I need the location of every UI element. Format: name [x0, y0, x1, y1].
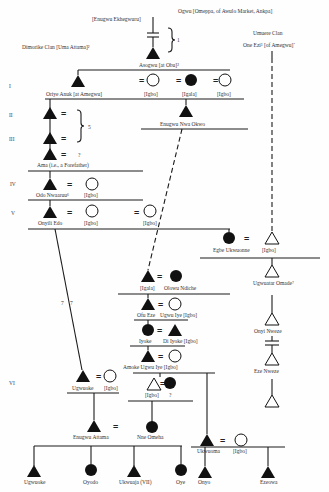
label-di-iyoke: Di Iyoke [Igbo]: [163, 338, 198, 344]
female-egbe-ukwuonne: [223, 232, 235, 244]
male-gen-II: [43, 107, 57, 119]
female-ugwuoke-wife: [104, 370, 116, 382]
generation-IV: IV: [10, 181, 16, 187]
bracket-2-note: 5: [88, 124, 91, 130]
svg-text:=: =: [244, 234, 249, 244]
generation-II: II: [9, 112, 13, 118]
male-igala: [141, 270, 155, 282]
male-umuere-descendant: [265, 395, 279, 407]
svg-text:7: 7: [61, 300, 64, 306]
svg-text:=: =: [139, 76, 144, 86]
label-iyoke: Iyoke: [139, 338, 152, 344]
svg-text:=: =: [157, 272, 162, 282]
female-oyodo: [85, 464, 97, 476]
label-onyili-edo: Onyili Edo: [38, 220, 63, 226]
onyili-ugwuoke-line: [55, 229, 82, 370]
generation-VI: VI: [9, 380, 15, 386]
label-eze-nweze: Eze Nweze: [254, 368, 279, 374]
label-ogwu: Ogwu [Omeppa, of Awulo Market, Ankpa]: [178, 8, 273, 14]
svg-text:=: =: [134, 208, 139, 218]
label-child-ugwuoke: Ugwuoke: [24, 479, 46, 485]
male-ukwuoma: [200, 434, 214, 446]
male-enugwu-nwa-okwo: [179, 105, 193, 117]
bracket-1: [168, 28, 175, 52]
label-oyodo: Oyodo: [83, 479, 98, 485]
label-onyo: Onyo: [198, 479, 210, 485]
generation-V: V: [11, 210, 15, 216]
male-igbo-egbe-husband: [265, 232, 279, 244]
bracket-2: [77, 110, 84, 142]
svg-text:=: =: [157, 326, 162, 336]
svg-text:=: =: [61, 150, 66, 160]
male-ezeowa: [261, 466, 275, 478]
label-asogwu: Asogwu [at Obu]²: [139, 62, 179, 68]
label-ama: Ama (i.e., a Forefather): [37, 162, 89, 169]
bracket-1-note: 1: [177, 37, 180, 43]
male-amoke: [141, 350, 155, 362]
ogwu-descent: [147, 17, 159, 47]
female-igbo-wife-2: [219, 74, 231, 86]
label-oye: Oye: [176, 479, 186, 485]
svg-text:=: =: [113, 422, 118, 432]
label-oriye-anuk: Oriye Anuk [at Amegwu]: [46, 91, 102, 97]
svg-text:=: =: [67, 208, 72, 218]
svg-text:?: ?: [169, 392, 172, 398]
svg-text:=: =: [158, 300, 163, 310]
svg-text:=: =: [176, 76, 181, 86]
generation-I: I: [9, 83, 11, 89]
male-child-ugwuoke: [27, 465, 41, 477]
label-ukwuaja: Ukwuaja (VII): [119, 479, 152, 486]
svg-text:[Igbo]: [Igbo]: [84, 220, 98, 226]
label-nne-omeha: Nne Omeha: [137, 434, 164, 440]
svg-text:7: 7: [70, 300, 73, 306]
svg-text:=: =: [158, 352, 163, 362]
female-ugwu-iye: [169, 298, 181, 310]
male-igbo-husband: [147, 378, 161, 390]
label-ofu-eze: Ofu Eze: [137, 312, 156, 318]
male-enugwu-attama: [87, 420, 101, 432]
svg-text:=: =: [220, 436, 225, 446]
label-onyi-nweze: Onyi Nweze: [254, 328, 282, 334]
label-enugwu-nwa-okwo: Enugwu Nwa Okwo: [160, 121, 205, 127]
svg-text:=: =: [213, 76, 218, 86]
label-enugwu-ekhegwuru: [Enugwu Ekhegwuru]: [92, 16, 141, 22]
svg-text:?: ?: [78, 152, 81, 158]
female-iyoke: [142, 324, 154, 336]
kinship-chart: Ogwu [Omeppa, of Awulo Market, Ankpa] [E…: [0, 0, 329, 492]
male-onyo: [198, 466, 212, 478]
label-olowu-ndiche: Olowu Ndiche: [164, 285, 197, 291]
female-nne-omeha: [146, 421, 158, 433]
female-igbo-onyili-wife-2: [144, 205, 156, 217]
male-onyili-edo: [43, 206, 57, 218]
enugwu-descent-dashed: [148, 129, 182, 270]
label-amoke-ugwu-iye: Amoke Ugwu Iye [Igbo]: [123, 364, 178, 370]
svg-text:=: =: [61, 109, 66, 119]
label-ugwuatar-omade: Ugwuatar Omade⁷: [253, 280, 294, 286]
male-di-iyoke: [168, 324, 182, 336]
label-egbe-ukwuonne: Egbe Ukwuonne: [213, 247, 250, 253]
male-ugwuatar-omade: [265, 265, 279, 277]
female-igbo-odo-wife: [86, 178, 98, 190]
label-umuere-clan: Umuere Clan: [253, 30, 283, 36]
male-ugwuoke: [76, 370, 90, 382]
female-ukwuoma-wife: [235, 434, 247, 446]
svg-text:=: =: [67, 180, 72, 190]
label-ugwu-iye: Ugwu Iye [Igbo]: [160, 312, 197, 318]
male-ukwuaja: [127, 465, 141, 477]
label-ugwuoke: Ugwuoke: [72, 385, 94, 391]
female-igala-wife: [185, 74, 197, 86]
male-ofu-eze: [141, 298, 155, 310]
female-olowu-ndiche: [170, 270, 182, 282]
svg-text:[Igala]: [Igala]: [182, 91, 197, 97]
svg-text:[Igbo]: [Igbo]: [143, 220, 157, 226]
female-unnamed: [164, 377, 176, 389]
male-asogwu: [146, 47, 160, 59]
male-ama: [43, 148, 57, 160]
svg-text:=: =: [61, 134, 66, 144]
svg-text:[Igbo]: [Igbo]: [233, 448, 247, 454]
svg-text:=: =: [96, 372, 101, 382]
svg-text:[Igbo]: [Igbo]: [217, 91, 231, 97]
svg-text:[Igbo]: [Igbo]: [144, 91, 158, 97]
svg-text:[Igbo]: [Igbo]: [145, 392, 159, 398]
label-one-ezi: One Ezi³ [of Amegwu]´: [243, 42, 295, 48]
